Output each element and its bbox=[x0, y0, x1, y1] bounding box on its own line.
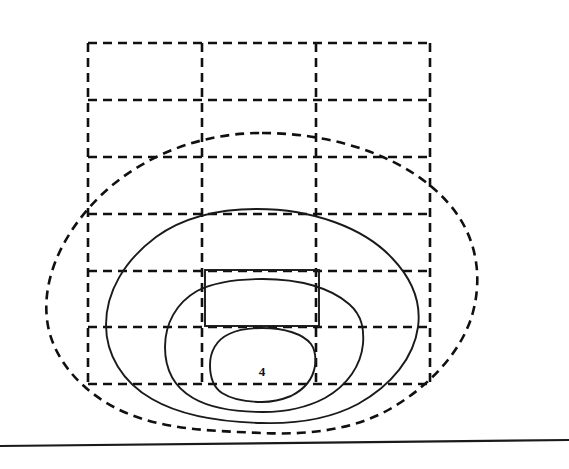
outer-contour-dashed bbox=[46, 133, 477, 433]
contour-level-1 bbox=[106, 209, 419, 423]
contour-diagram: 4 bbox=[0, 0, 569, 469]
reference-grid bbox=[88, 43, 430, 384]
figure-canvas: 4 bbox=[0, 0, 569, 469]
contour-level-2 bbox=[165, 279, 363, 412]
contour-value-label: 4 bbox=[259, 364, 266, 379]
ground-baseline bbox=[0, 440, 569, 446]
